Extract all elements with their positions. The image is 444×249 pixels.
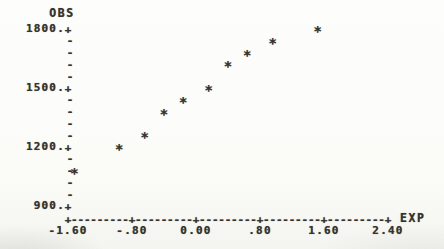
y-axis-minor-dash: -: [64, 117, 76, 129]
y-tick-label: 1800.: [26, 23, 65, 35]
data-point-marker: *: [67, 166, 81, 180]
y-axis-minor-dash: -: [64, 106, 76, 118]
data-point-marker: *: [176, 95, 190, 109]
data-point-marker: *: [112, 142, 126, 156]
y-tick-label: 900.: [34, 200, 65, 212]
y-axis-minor-dash: -: [64, 188, 76, 200]
x-tick-label: -.80: [116, 225, 147, 237]
y-axis-tick: +: [62, 200, 74, 212]
y-axis-minor-dash: -: [64, 35, 76, 47]
data-point-marker: *: [202, 83, 216, 97]
y-axis-tick: +: [62, 23, 74, 35]
x-tick-label: 0.00: [180, 225, 211, 237]
data-point-marker: *: [266, 36, 280, 50]
x-tick-label: 1.60: [308, 225, 339, 237]
data-point-marker: *: [311, 24, 325, 38]
x-axis-dash: -: [248, 214, 260, 226]
x-tick-label: .80: [248, 225, 271, 237]
x-axis-dash: -: [376, 214, 388, 226]
x-axis-dash: -: [120, 214, 132, 226]
y-axis-minor-dash: -: [64, 153, 76, 165]
data-point-marker: *: [157, 107, 171, 121]
y-axis-tick: +: [62, 82, 74, 94]
y-tick-label: 1500.: [26, 82, 65, 94]
y-tick-label: 1200.: [26, 141, 65, 153]
y-axis-tick: +: [62, 141, 74, 153]
plot-area: 1800.+1500.+1200.+900.+------------+-1.6…: [0, 0, 444, 249]
y-axis-minor-dash: -: [64, 47, 76, 59]
data-point-marker: *: [138, 130, 152, 144]
data-point-marker: *: [221, 59, 235, 73]
x-axis-dash: -: [312, 214, 324, 226]
printer-scatter-plot-figure: OBS EXP 1800.+1500.+1200.+900.+---------…: [0, 0, 444, 249]
y-axis-minor-dash: -: [64, 70, 76, 82]
y-axis-minor-dash: -: [64, 129, 76, 141]
y-axis-minor-dash: -: [64, 94, 76, 106]
y-axis-minor-dash: -: [64, 58, 76, 70]
x-tick-label: 2.40: [372, 225, 403, 237]
x-axis-dash: -: [184, 214, 196, 226]
data-point-marker: *: [240, 48, 254, 62]
x-tick-label: -1.60: [48, 225, 87, 237]
